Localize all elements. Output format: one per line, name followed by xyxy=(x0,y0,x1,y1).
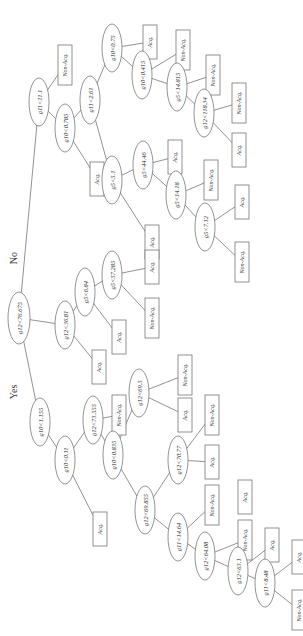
split-label: g5<14.18 xyxy=(173,181,180,207)
split-node: g11<14.64 xyxy=(168,513,188,561)
leaf-node: Non-Acq. xyxy=(232,83,246,123)
leaf-label: Non-Acq. xyxy=(62,54,68,78)
split-label: g12<36.81 xyxy=(62,311,69,340)
leaf-node: Acq. xyxy=(292,540,303,574)
no-branch-label: No xyxy=(8,252,19,264)
split-label: g5<14.815 xyxy=(174,72,181,102)
split-node: g5<6.84 xyxy=(75,268,95,316)
split-node: g12<69.5 xyxy=(129,369,149,417)
leaf-node: Acq. xyxy=(232,133,246,167)
split-node: g10<0.785 xyxy=(55,104,75,152)
leaf-label: Acq. xyxy=(94,174,100,186)
split-node: g10<0.11 xyxy=(55,436,75,484)
split-node: g12<63.1 xyxy=(228,547,248,595)
leaf-label: Acq. xyxy=(236,145,242,157)
leaf-node: Acq. xyxy=(178,398,192,432)
split-label: g10<0.785 xyxy=(62,113,69,143)
split-node: g5<14.18 xyxy=(166,171,186,219)
leaf-label: Non-Acq. xyxy=(209,494,215,518)
leaf-label: Acq. xyxy=(242,492,248,504)
split-node: g12<76.675 xyxy=(8,292,30,344)
split-label: g11<2.61 xyxy=(87,87,94,112)
leaf-label: Acq. xyxy=(147,37,153,49)
leaf-node: Acq. xyxy=(112,320,126,354)
leaf-label: Non-Acq. xyxy=(296,599,302,623)
split-node: g5<44.46 xyxy=(133,141,153,189)
leaf-label: Non-Acq. xyxy=(209,404,215,428)
leaf-label: Acq. xyxy=(269,540,275,552)
split-label: g11<11.1 xyxy=(36,90,43,115)
leaf-node: Non-Acq. xyxy=(292,590,303,630)
split-label: g5<57.285 xyxy=(109,260,116,290)
split-label: g12<76.675 xyxy=(16,301,23,334)
leaf-node: Acq. xyxy=(235,185,249,219)
split-node: g10<0.835 xyxy=(103,431,123,479)
leaf-label: Acq. xyxy=(209,457,215,469)
split-node: g12<36.81 xyxy=(55,301,75,349)
split-label: g10<0.835 xyxy=(110,440,117,470)
leaf-label: Acq. xyxy=(296,552,302,564)
leaf-label: Acq. xyxy=(182,410,188,422)
leaf-node: Acq. xyxy=(205,445,219,479)
leaf-label: Non-Acq. xyxy=(210,64,216,88)
split-node: g12<73.555 xyxy=(83,396,103,444)
leaf-node: Non-Acq. xyxy=(58,45,72,85)
leaf-node: Non-Acq. xyxy=(206,55,220,95)
split-label: g12<63.1 xyxy=(235,558,242,584)
leaf-node: Non-Acq. xyxy=(145,298,159,338)
leaf-label: Acq. xyxy=(172,152,178,164)
leaf-node: Non-Acq. xyxy=(112,395,126,435)
leaf-node: Non-Acq. xyxy=(205,485,219,525)
yes-branch-label: Yes xyxy=(8,385,19,400)
split-label: g12<69.5 xyxy=(136,379,143,405)
split-label: g5<6.84 xyxy=(82,280,89,303)
leaf-label: Acq. xyxy=(96,362,102,374)
split-label: g10<0.415 xyxy=(139,60,146,90)
tree-edge xyxy=(19,102,39,318)
leaf-label: Acq. xyxy=(149,262,155,274)
leaf-label: Acq. xyxy=(97,524,103,536)
leaf-label: Non-Acq. xyxy=(208,169,214,193)
leaf-label: Non-Acq. xyxy=(236,92,242,116)
split-node: g12<69.855 xyxy=(135,486,155,534)
leaf-node: Acq. xyxy=(168,140,182,174)
split-label: g10<0.11 xyxy=(62,447,69,472)
leaf-label: Non-Acq. xyxy=(182,364,188,388)
split-label: g12<118.34 xyxy=(201,96,208,128)
split-node: g5<7.12 xyxy=(195,203,215,251)
leaf-node: Acq. xyxy=(92,350,106,384)
split-node: g12<64.08 xyxy=(195,532,215,580)
leaf-node: Acq. xyxy=(265,528,279,562)
leaf-node: Acq. xyxy=(93,512,107,546)
leaf-node: Non-Acq. xyxy=(204,160,218,200)
split-node: g10<0.415 xyxy=(132,51,152,99)
leaf-label: Non-Acq. xyxy=(180,39,186,63)
split-node: g11<11.1 xyxy=(29,78,49,126)
split-label: g12<73.555 xyxy=(90,403,97,436)
leaf-node: Non-Acq. xyxy=(178,355,192,395)
split-label: g5<5.1 xyxy=(109,170,116,189)
split-label: g11<8.48 xyxy=(262,570,269,596)
decision-tree-diagram: g12<76.675g11<11.1Non-Acq.g10<0.785g11<2… xyxy=(0,0,303,636)
leaf-label: Acq. xyxy=(116,332,122,344)
split-label: g10<0.75 xyxy=(109,34,116,60)
split-node: g10<0.75 xyxy=(102,24,122,72)
split-label: g11<14.64 xyxy=(175,522,182,551)
split-node: g11<8.48 xyxy=(255,559,275,607)
leaf-node: Acq. xyxy=(145,250,159,284)
split-node: g11<2.61 xyxy=(80,76,100,124)
leaf-node: Non-Acq. xyxy=(205,395,219,435)
leaf-label: Acq. xyxy=(239,197,245,209)
split-node: g12<70.77 xyxy=(168,436,188,484)
split-node: g12<118.34 xyxy=(194,89,214,137)
split-label: g12<69.855 xyxy=(142,493,149,526)
split-label: g12<70.77 xyxy=(175,445,182,475)
split-node: g5<14.815 xyxy=(167,63,187,111)
split-node: g10<1.155 xyxy=(30,398,50,446)
split-label: g5<7.12 xyxy=(202,215,209,238)
split-label: g5<44.46 xyxy=(140,151,147,177)
leaf-node: Acq. xyxy=(238,480,252,514)
leaf-label: Non-Acq. xyxy=(149,307,155,331)
split-node: g5<57.285 xyxy=(102,251,122,299)
leaf-label: Non-Acq. xyxy=(116,404,122,428)
